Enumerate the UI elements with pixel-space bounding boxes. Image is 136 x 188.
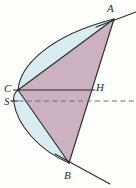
vertex-label-a: A bbox=[107, 3, 114, 14]
figure-canvas bbox=[0, 0, 136, 188]
vertex-label-c: C bbox=[4, 83, 11, 94]
vertex-label-s: S bbox=[4, 96, 10, 107]
geometry-figure: A B C S H bbox=[0, 0, 136, 188]
vertex-label-b: B bbox=[64, 170, 71, 181]
tangent-at-A bbox=[96, 12, 136, 27]
vertex-label-h: H bbox=[96, 82, 104, 93]
